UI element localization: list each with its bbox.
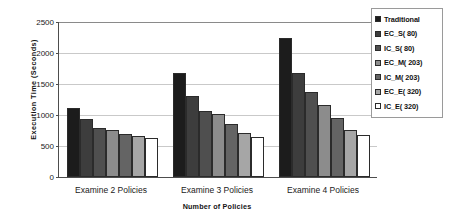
bar — [251, 137, 264, 177]
plot-area: 25002000150010005000 — [58, 22, 377, 178]
bar — [238, 133, 251, 177]
chart-legend: TraditionalEC_S( 80)IC_S( 80)EC_M( 203)I… — [371, 8, 443, 118]
bar — [145, 138, 158, 177]
legend-item[interactable]: EC_M( 203) — [375, 56, 439, 71]
y-tick-label: 1000 — [36, 111, 54, 120]
legend-item-label: EC_S( 80) — [384, 29, 417, 38]
y-tick-label: 1500 — [36, 80, 54, 89]
legend-item-label: IC_S( 80) — [384, 44, 414, 53]
x-tick-label: Examine 3 Policies — [181, 185, 253, 195]
bar — [132, 136, 145, 177]
legend-item[interactable]: IC_M( 203) — [375, 70, 439, 85]
legend-item[interactable]: IC_S( 80) — [375, 41, 439, 56]
legend-swatch-icon — [375, 89, 381, 95]
bar — [119, 134, 132, 177]
legend-item-label: IC_M( 203) — [384, 73, 420, 82]
bar-group — [279, 22, 370, 177]
y-tick-mark — [56, 177, 59, 178]
bar — [67, 108, 80, 177]
legend-swatch-icon — [375, 31, 381, 37]
y-tick-label: 500 — [41, 142, 54, 151]
y-tick-label: 0 — [50, 173, 54, 182]
bar-chart: Execution Time (Seconds) 250020001500100… — [0, 0, 449, 224]
x-tick-label: Examine 4 Policies — [287, 185, 359, 195]
bar — [279, 38, 292, 177]
legend-item[interactable]: EC_E( 320) — [375, 85, 439, 100]
bar — [331, 118, 344, 177]
x-axis-labels: Examine 2 PoliciesExamine 3 PoliciesExam… — [58, 185, 376, 195]
bar — [357, 135, 370, 177]
legend-item[interactable]: Traditional — [375, 12, 439, 27]
bar-groups — [59, 22, 377, 177]
bar — [199, 111, 212, 177]
x-axis-title: Number of Policies — [58, 202, 376, 211]
bar — [318, 105, 331, 177]
bar — [106, 130, 119, 177]
legend-swatch-icon — [375, 45, 381, 51]
y-axis-title: Execution Time (Seconds) — [29, 10, 38, 170]
bar — [93, 128, 106, 177]
legend-item-label: EC_M( 203) — [384, 58, 422, 67]
legend-item-label: EC_E( 320) — [384, 87, 421, 96]
bar — [186, 96, 199, 177]
legend-item-label: Traditional — [384, 15, 420, 24]
legend-item-label: IC_E( 320) — [384, 102, 418, 111]
bar — [344, 130, 357, 177]
legend-swatch-icon — [375, 74, 381, 80]
bar-group — [67, 22, 158, 177]
bar — [225, 124, 238, 177]
bar-group — [173, 22, 264, 177]
bar — [80, 119, 93, 177]
legend-item[interactable]: EC_S( 80) — [375, 27, 439, 42]
y-tick-label: 2500 — [36, 18, 54, 27]
bar — [292, 73, 305, 177]
y-tick-label: 2000 — [36, 49, 54, 58]
x-tick-label: Examine 2 Policies — [75, 185, 147, 195]
bar — [212, 114, 225, 177]
bar — [173, 73, 186, 177]
legend-swatch-icon — [375, 60, 381, 66]
legend-swatch-icon — [375, 16, 381, 22]
legend-item[interactable]: IC_E( 320) — [375, 99, 439, 114]
bar — [305, 92, 318, 177]
legend-swatch-icon — [375, 103, 381, 109]
